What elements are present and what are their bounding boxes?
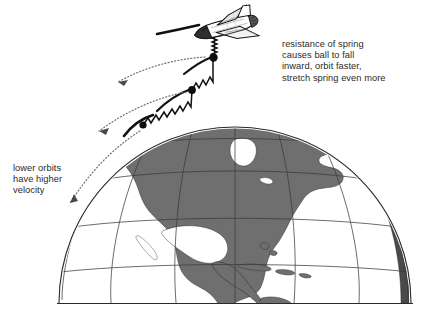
- space-shuttle: [191, 3, 262, 52]
- spring-resistance-note: resistance of spring causes ball to fall…: [282, 39, 386, 84]
- orbit-arrow-top: [118, 57, 205, 82]
- orbit-arcs: [124, 57, 212, 136]
- earth-globe: [57, 113, 413, 312]
- diagram-canvas: resistance of spring causes ball to fall…: [0, 0, 425, 315]
- tethered-ball-low: [139, 121, 146, 128]
- tethered-ball-mid: [188, 86, 196, 94]
- lower-orbit-velocity-note: lower orbits have higher velocity: [13, 163, 62, 197]
- tethered-ball-high: [209, 53, 217, 61]
- tether-line: [157, 25, 199, 34]
- tethered-balls: [139, 53, 217, 128]
